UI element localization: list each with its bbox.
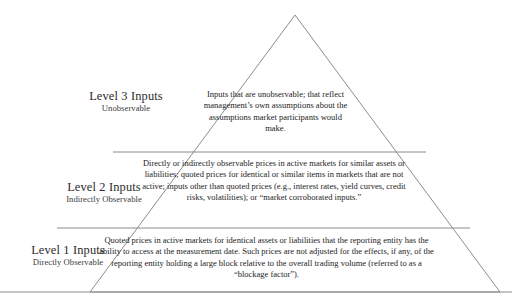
level-1-body: Quoted prices in active markets for iden… <box>94 235 439 281</box>
level-3-label: Level 3 Inputs Unobservable <box>62 90 190 114</box>
fair-value-hierarchy-diagram: Level 3 Inputs Unobservable Inputs that … <box>0 0 525 308</box>
level-3-subtitle: Unobservable <box>62 104 190 114</box>
level-2-body: Directly or indirectly observable prices… <box>140 158 408 204</box>
level-3-body: Inputs that are unobservable; that refle… <box>198 89 353 135</box>
level-3-title: Level 3 Inputs <box>62 90 190 104</box>
